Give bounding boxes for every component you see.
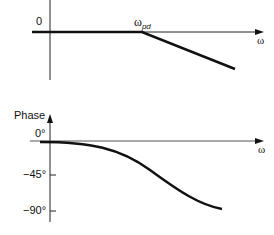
tick-label-minus-45: −45° [23,168,46,180]
phase-x-axis-label: ω [258,143,265,155]
break-frequency-subscript: pd [142,22,151,31]
magnitude-x-axis-label: ω [257,34,264,46]
magnitude-zero-label: 0 [36,15,42,27]
break-frequency-label: ωpd [134,12,151,30]
phase-plot [30,114,264,222]
break-frequency-symbol: ω [134,15,142,29]
phase-y-arrow-icon [47,114,53,123]
phase-curve [40,142,222,209]
tick-label-0: 0° [35,127,46,139]
tick-label-minus-90: −90° [23,204,46,216]
phase-y-axis-label: Phase [14,109,45,121]
magnitude-asymptote [32,32,235,69]
